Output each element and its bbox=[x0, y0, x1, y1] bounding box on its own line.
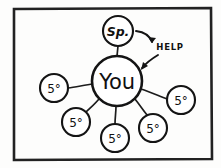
satellite-label-bottom: 5° bbox=[108, 132, 122, 146]
satellite-label-lower-right: 5° bbox=[146, 122, 160, 136]
node-satellite[interactable]: 5° bbox=[167, 86, 195, 114]
spoke-to-satellite-lower-right bbox=[135, 99, 147, 115]
sp-label: Sp. bbox=[107, 24, 130, 39]
hub-spoke-diagram: HELP Sp. You 5° 5° 5° 5° bbox=[0, 0, 221, 168]
node-satellite[interactable]: 5° bbox=[139, 114, 167, 142]
satellite-label-lower-left: 5° bbox=[69, 116, 83, 130]
node-satellite[interactable]: 5° bbox=[40, 74, 68, 102]
help-arrow-curve-top bbox=[136, 31, 152, 42]
node-satellite[interactable]: 5° bbox=[101, 124, 129, 152]
spoke-to-satellite-lower-left bbox=[85, 99, 99, 113]
help-label: HELP bbox=[156, 42, 183, 52]
help-annotation: HELP bbox=[136, 31, 184, 70]
diagram-canvas: HELP Sp. You 5° 5° 5° 5° bbox=[0, 0, 221, 168]
spoke-to-satellite-bottom bbox=[115, 106, 116, 124]
spoke-to-sp bbox=[117, 46, 118, 56]
satellite-label-right: 5° bbox=[174, 94, 188, 108]
satellite-label-left: 5° bbox=[47, 82, 61, 96]
you-label: You bbox=[98, 70, 134, 94]
node-you[interactable]: You bbox=[92, 56, 142, 106]
spoke-to-satellite-left bbox=[68, 84, 93, 88]
help-arrow-head-top bbox=[148, 37, 156, 43]
node-sp[interactable]: Sp. bbox=[103, 16, 133, 46]
node-satellite[interactable]: 5° bbox=[62, 108, 90, 136]
spoke-to-satellite-right bbox=[141, 89, 167, 99]
